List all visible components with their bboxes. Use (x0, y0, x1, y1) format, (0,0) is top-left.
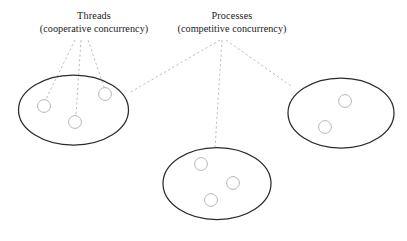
thread-circle (227, 177, 240, 190)
diagram-canvas: Threads (cooperative concurrency) Proces… (0, 0, 407, 241)
thread-circle (205, 194, 218, 207)
left-process-group (19, 75, 129, 145)
bottom-process-ellipse (163, 148, 271, 220)
bottom-process-group (163, 148, 271, 220)
thread-circle (195, 158, 208, 171)
thread-leader-line-1 (46, 40, 75, 99)
threads-label-subtitle: (cooperative concurrency) (14, 22, 174, 35)
process-leader-line-bottom (215, 40, 222, 148)
thread-circle (69, 116, 82, 129)
thread-circle (319, 121, 332, 134)
processes-label-title: Processes (152, 9, 312, 22)
process-leader-lines (129, 40, 291, 148)
thread-circle (99, 88, 112, 101)
thread-circle (339, 95, 352, 108)
process-leader-line-left (129, 40, 220, 93)
right-process-group (288, 78, 394, 148)
threads-label-title: Threads (14, 9, 174, 22)
threads-label: Threads (cooperative concurrency) (14, 9, 174, 35)
processes-label: Processes (competitive concurrency) (152, 9, 312, 35)
thread-leader-line-2 (76, 40, 81, 115)
processes-label-subtitle: (competitive concurrency) (152, 22, 312, 35)
thread-circle (38, 100, 51, 113)
concurrency-diagram-svg (0, 0, 407, 241)
process-leader-line-right (226, 40, 291, 86)
right-process-ellipse (288, 78, 394, 148)
left-process-ellipse (19, 75, 129, 145)
